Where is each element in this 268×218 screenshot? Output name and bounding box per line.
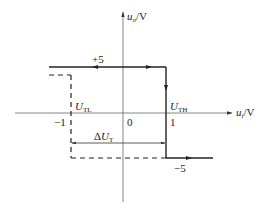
- hysteresis-width-label: ΔUT: [94, 130, 114, 144]
- y-axis-label: uo/V: [127, 10, 147, 24]
- threshold-low-value: −1: [54, 116, 66, 128]
- direction-arrow-right-top: [146, 65, 152, 69]
- direction-arrow-right-bottom: [186, 156, 192, 160]
- threshold-high-value: 1: [170, 116, 176, 128]
- threshold-high-label: UTH: [170, 100, 187, 114]
- threshold-low-label: UTL: [75, 100, 92, 114]
- direction-arrow-left-top: [92, 65, 98, 69]
- high-level-label: +5: [92, 53, 104, 65]
- hysteresis-diagram: uo/V ui/V 0 +5 −5 UTL −1 UTH 1 ΔUT: [0, 0, 268, 218]
- low-level-label: −5: [174, 162, 186, 174]
- x-axis-label: ui/V: [236, 106, 255, 120]
- origin-label: 0: [127, 116, 133, 128]
- direction-arrow-down: [164, 85, 168, 91]
